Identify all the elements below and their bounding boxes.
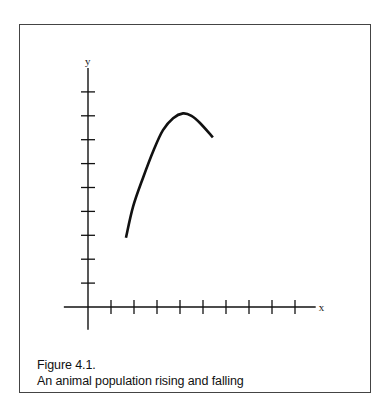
figure-caption: Figure 4.1. An animal population rising … (37, 357, 244, 389)
figure-number: Figure 4.1. (37, 357, 244, 373)
x-axis-label: x (319, 301, 325, 313)
figure-caption-text: An animal population rising and falling (37, 373, 244, 389)
population-curve (126, 113, 213, 237)
y-axis-label: y (85, 55, 91, 67)
chart: x y (0, 0, 391, 417)
